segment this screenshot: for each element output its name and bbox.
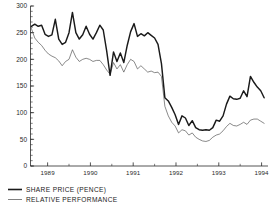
y-tick-label: 250	[16, 29, 27, 36]
plot-series	[31, 12, 264, 141]
series-line-share-price	[31, 12, 264, 130]
y-tick-label: 300	[16, 2, 27, 9]
y-axis: 050100150200250300	[16, 2, 34, 169]
share-price-chart: 050100150200250300 198919901991199219931…	[0, 0, 273, 206]
y-major-ticks	[31, 6, 35, 166]
legend-label-relative-performance: RELATIVE PERFORMANCE	[26, 196, 118, 203]
chart-canvas: 050100150200250300 198919901991199219931…	[0, 0, 273, 206]
x-tick-label: 1992	[169, 169, 184, 176]
x-tick-label: 1994	[254, 169, 269, 176]
x-tick-label: 1991	[126, 169, 141, 176]
y-tick-labels: 050100150200250300	[16, 2, 27, 169]
x-tick-label: 1993	[212, 169, 227, 176]
y-tick-label: 50	[20, 136, 28, 143]
legend-label-share-price: SHARE PRICE (PENCE)	[26, 186, 106, 194]
y-tick-label: 150	[16, 82, 27, 89]
legend: SHARE PRICE (PENCE) RELATIVE PERFORMANCE	[8, 186, 118, 203]
x-tick-label: 1990	[83, 169, 98, 176]
y-tick-label: 0	[24, 162, 28, 169]
x-axis: 198919901991199219931994	[31, 162, 270, 176]
x-tick-labels: 198919901991199219931994	[41, 169, 270, 176]
x-tick-label: 1989	[41, 169, 56, 176]
y-tick-label: 200	[16, 56, 27, 63]
y-tick-label: 100	[16, 109, 27, 116]
series-line-relative-performance	[31, 28, 264, 141]
